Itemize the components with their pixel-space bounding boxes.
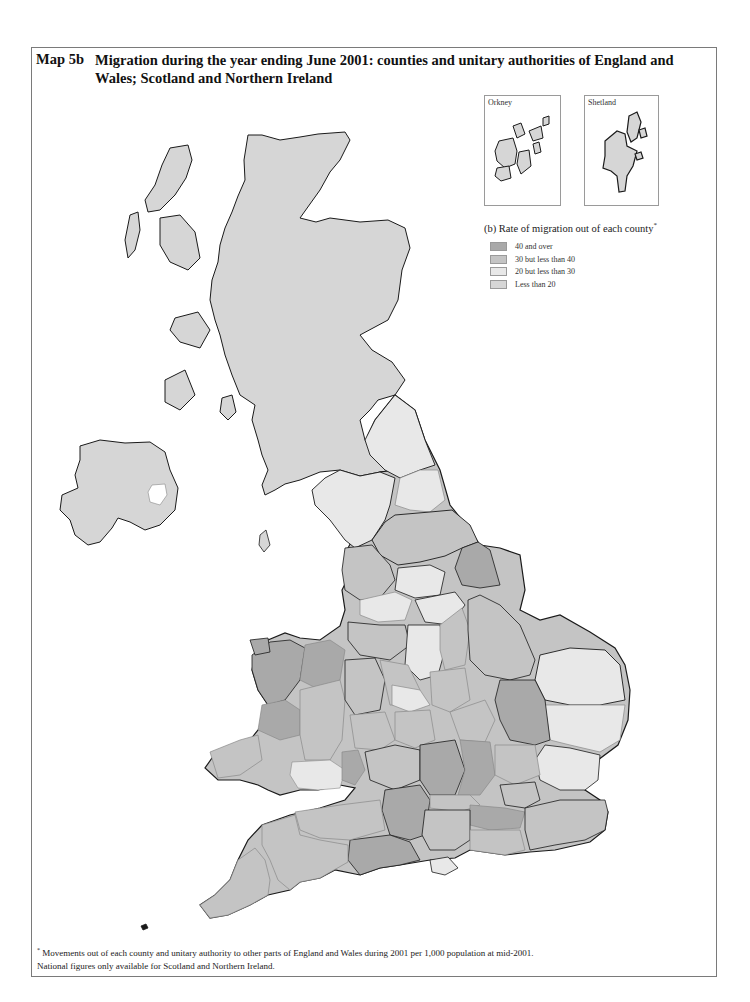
county-south-wales-valleys — [290, 760, 345, 790]
legend-swatch — [490, 242, 507, 251]
legend-item-30-40: 30 but less than 40 — [490, 253, 657, 266]
legend-title-marker: * — [653, 221, 657, 229]
shetland-islands — [585, 96, 660, 207]
county-norfolk — [535, 648, 625, 705]
legend-title-text: (b) Rate of migration out of each county — [484, 223, 653, 234]
county-lincolnshire — [468, 595, 535, 680]
region-outer-hebrides — [145, 145, 192, 212]
region-mull — [170, 312, 210, 348]
orkney-islands — [485, 96, 562, 207]
legend-label: 40 and over — [515, 242, 553, 251]
region-skye — [160, 215, 200, 270]
county-shropshire — [345, 658, 385, 715]
county-warwickshire — [395, 710, 435, 748]
region-islay — [165, 370, 195, 410]
legend-swatch — [490, 267, 507, 276]
footnote-text-1: Movements out of each county and unitary… — [42, 948, 533, 958]
legend-swatch — [490, 280, 507, 289]
legend-label: 30 but less than 40 — [515, 255, 575, 264]
legend-item-20-30: 20 but less than 30 — [490, 266, 657, 279]
footnote-line-2: National figures only available for Scot… — [37, 960, 707, 973]
legend-label: Less than 20 — [515, 280, 555, 289]
footnote-line-1: * Movements out of each county and unita… — [37, 944, 707, 960]
anglesey — [250, 638, 270, 655]
county-cornwall — [200, 848, 270, 918]
region-hebrides-south — [125, 212, 140, 258]
county-hampshire — [422, 810, 470, 850]
isles-of-scilly — [141, 924, 148, 930]
legend-label: 20 but less than 30 — [515, 267, 575, 276]
isle-of-wight — [430, 857, 458, 875]
footnote-marker: * — [37, 947, 40, 953]
isle-of-man — [259, 530, 270, 552]
legend-swatch — [490, 255, 507, 264]
inset-orkney: Orkney — [484, 95, 561, 206]
county-kent — [525, 800, 608, 850]
legend-title: (b) Rate of migration out of each county… — [484, 221, 657, 234]
legend-item-40-plus: 40 and over — [490, 241, 657, 254]
legend-item-under-20: Less than 20 — [490, 278, 657, 291]
county-west-yorkshire — [395, 565, 445, 598]
footnote: * Movements out of each county and unita… — [37, 944, 707, 973]
inset-shetland: Shetland — [584, 95, 659, 206]
map-legend: (b) Rate of migration out of each county… — [484, 221, 657, 291]
county-west-sussex — [470, 830, 525, 855]
legend-list: 40 and over 30 but less than 40 20 but l… — [490, 241, 657, 291]
region-arran — [220, 395, 236, 420]
